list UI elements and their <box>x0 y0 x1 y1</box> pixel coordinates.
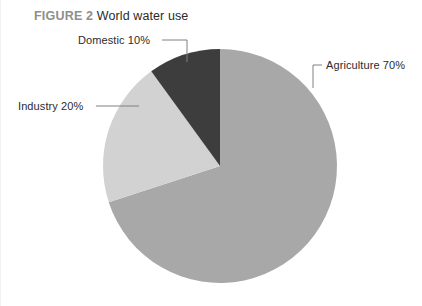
slice-label-industry: Industry 20% <box>18 99 83 113</box>
leader-line-agriculture <box>313 65 322 88</box>
pie-chart <box>0 0 422 306</box>
slice-label-domestic: Domestic 10% <box>78 33 150 47</box>
figure-container: FIGURE 2 World water use Domestic 10% In… <box>0 0 422 306</box>
slice-label-agriculture: Agriculture 70% <box>326 58 405 72</box>
